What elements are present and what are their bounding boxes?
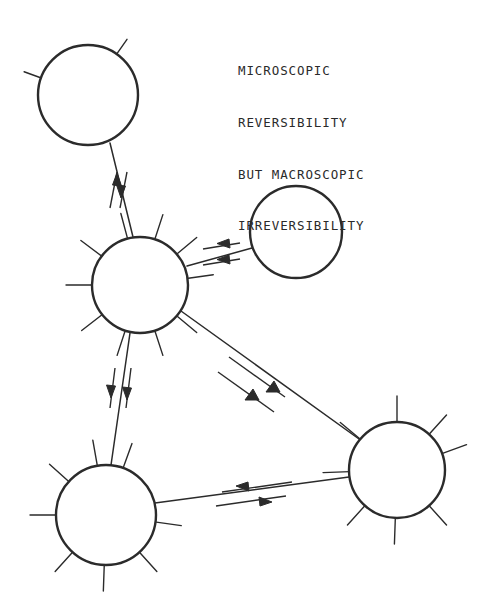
arrow-down-head — [117, 185, 126, 198]
spoke — [340, 422, 361, 439]
spoke — [347, 505, 365, 525]
spoke — [155, 330, 163, 356]
spoke — [121, 214, 128, 240]
spoke — [103, 564, 104, 591]
edge-lowerleft-lowerright-line — [155, 477, 349, 503]
arrow-lr-upper-shaft — [222, 482, 292, 492]
node-center[interactable] — [66, 214, 213, 356]
spoke — [81, 240, 103, 256]
spoke — [176, 315, 197, 332]
caption-line-2: REVERSIBILITY — [238, 114, 364, 131]
spoke — [50, 464, 70, 482]
spoke — [155, 215, 163, 241]
arrow-dr-upper-head — [266, 381, 280, 392]
spoke — [117, 330, 125, 356]
arrow-dl-right-head — [123, 387, 132, 400]
caption-line-4: IRREVERSIBILITY — [238, 217, 364, 234]
spoke — [176, 237, 197, 254]
node-lower-right[interactable] — [323, 396, 466, 544]
node-lower-left-body[interactable] — [56, 465, 156, 565]
arrow-dl-left-head — [107, 385, 116, 398]
node-lower-right-body[interactable] — [349, 422, 445, 518]
spoke — [441, 445, 466, 454]
edge-center-lowerright-line — [181, 311, 359, 439]
spoke — [82, 314, 103, 331]
spoke — [394, 517, 395, 544]
spoke — [187, 275, 214, 279]
caption-line-1: MICROSCOPIC — [238, 62, 364, 79]
arrow-lr-lower-shaft — [216, 496, 286, 506]
spoke — [139, 551, 157, 571]
spoke — [24, 72, 42, 79]
spoke — [428, 415, 446, 435]
node-center-body[interactable] — [92, 237, 188, 333]
node-lower-left[interactable] — [30, 440, 181, 591]
arrow-pair-center-lowerleft — [107, 368, 132, 408]
caption-line-3: BUT MACROSCOPIC — [238, 166, 364, 183]
spoke — [93, 440, 98, 467]
arrow-up-head — [113, 173, 122, 186]
node-top-left[interactable] — [24, 39, 138, 145]
spoke — [323, 472, 350, 473]
spoke — [123, 444, 132, 469]
arrow-pair-center-upperright — [203, 239, 240, 265]
spoke — [428, 505, 446, 525]
arrow-dr-lower-head — [245, 389, 259, 400]
caption-block: MICROSCOPIC REVERSIBILITY BUT MACROSCOPI… — [238, 28, 364, 269]
spoke — [55, 551, 73, 571]
spoke — [155, 522, 182, 526]
figure-root: MICROSCOPIC REVERSIBILITY BUT MACROSCOPI… — [0, 0, 490, 611]
spoke — [116, 39, 127, 55]
arrow-pair-center-lowerright — [218, 357, 285, 412]
node-top-left-body[interactable] — [38, 45, 138, 145]
